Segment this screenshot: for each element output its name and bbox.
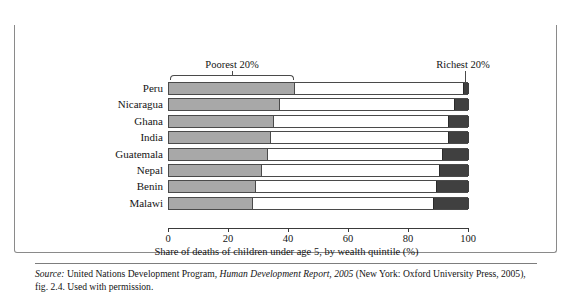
segment-poorest bbox=[169, 83, 295, 94]
segment-poorest bbox=[169, 165, 262, 176]
bar-plot: PeruNicaraguaGhanaIndiaGuatemalaNepalBen… bbox=[168, 82, 468, 213]
x-tick-label: 0 bbox=[148, 233, 188, 244]
x-axis-title: Share of deaths of children under age 5,… bbox=[15, 246, 558, 257]
country-label-benin: Benin bbox=[0, 180, 163, 193]
country-label-guatemala: Guatemala bbox=[0, 148, 163, 161]
country-label-nepal: Nepal bbox=[0, 164, 163, 177]
bar-row bbox=[168, 82, 468, 95]
poorest-quintile-label: Poorest 20% bbox=[172, 59, 292, 70]
x-tick-label: 20 bbox=[208, 233, 248, 244]
x-tick bbox=[468, 228, 469, 232]
source-report-title: Human Development Report, 2005 bbox=[220, 268, 354, 279]
x-tick bbox=[168, 228, 169, 232]
source-publisher: United Nations Development Program, bbox=[64, 268, 219, 279]
bar-row bbox=[168, 131, 468, 144]
segment-richest bbox=[442, 149, 469, 160]
segment-poorest bbox=[169, 198, 253, 209]
source-divider bbox=[35, 263, 537, 264]
bar-row bbox=[168, 148, 468, 161]
bar-row bbox=[168, 197, 468, 210]
x-tick-label: 40 bbox=[268, 233, 308, 244]
x-tick-label: 80 bbox=[388, 233, 428, 244]
chart-canvas: Poorest 20% Richest 20% PeruNicaraguaGha… bbox=[15, 25, 558, 253]
segment-poorest bbox=[169, 116, 274, 127]
segment-richest bbox=[439, 165, 469, 176]
x-tick bbox=[348, 228, 349, 232]
richest-pointer-stem bbox=[465, 71, 466, 82]
country-label-ghana: Ghana bbox=[0, 115, 163, 128]
segment-poorest bbox=[169, 132, 271, 143]
segment-richest bbox=[463, 83, 469, 94]
country-label-peru: Peru bbox=[0, 82, 163, 95]
x-tick bbox=[228, 228, 229, 232]
segment-poorest bbox=[169, 99, 280, 110]
source-prefix: Source: bbox=[35, 268, 64, 279]
segment-richest bbox=[454, 99, 469, 110]
segment-poorest bbox=[169, 149, 268, 160]
country-label-malawi: Malawi bbox=[0, 197, 163, 210]
figure-root: FIGURE 8.11 Children's Likelihood to Die… bbox=[0, 0, 573, 300]
x-axis-line bbox=[168, 228, 469, 229]
country-label-india: India bbox=[0, 131, 163, 144]
x-tick bbox=[408, 228, 409, 232]
segment-richest bbox=[436, 181, 469, 192]
segment-richest bbox=[448, 132, 469, 143]
x-tick-label: 60 bbox=[328, 233, 368, 244]
bar-row bbox=[168, 115, 468, 128]
country-label-nicaragua: Nicaragua bbox=[0, 98, 163, 111]
bar-row bbox=[168, 164, 468, 177]
segment-richest bbox=[448, 116, 469, 127]
richest-quintile-label: Richest 20% bbox=[403, 59, 523, 70]
poorest-bracket-stem bbox=[232, 71, 233, 76]
segment-poorest bbox=[169, 181, 256, 192]
x-tick-label: 100 bbox=[448, 233, 488, 244]
segment-richest bbox=[433, 198, 469, 209]
bar-row bbox=[168, 98, 468, 111]
figure-body: Poorest 20% Richest 20% PeruNicaraguaGha… bbox=[14, 25, 557, 253]
bar-row bbox=[168, 180, 468, 193]
source-note: Source: United Nations Development Progr… bbox=[35, 268, 540, 293]
x-tick bbox=[288, 228, 289, 232]
